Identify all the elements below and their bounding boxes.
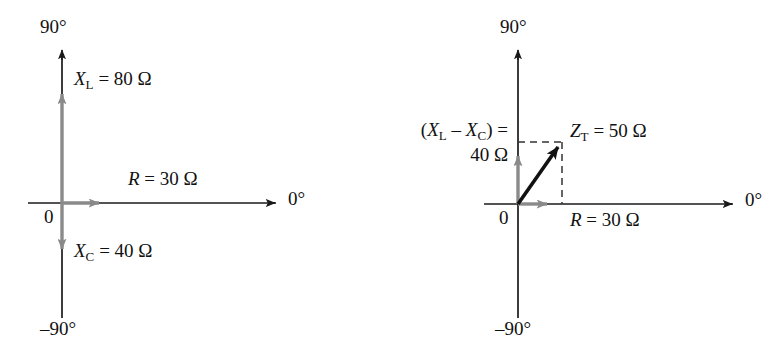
right-axis-label-90: 90° [500, 16, 527, 38]
right-diagram-canvas [385, 0, 775, 356]
right-net-reactance-phasor-label: (XL – XC) = 40 Ω [393, 119, 508, 165]
left-phasor-diagram: 90° –90° 0° 0 XL = 80 Ω R = 30 Ω XC = 40… [0, 0, 390, 356]
right-r-phasor-label: R = 30 Ω [570, 209, 640, 234]
left-axis-label-minus-90: –90° [40, 318, 76, 340]
left-axis-label-90: 90° [40, 16, 67, 38]
left-origin-label: 0 [44, 206, 54, 228]
phasor-diagram-figure: 90° –90° 0° 0 XL = 80 Ω R = 30 Ω XC = 40… [0, 0, 775, 356]
left-xc-phasor-label: XC = 40 Ω [74, 240, 152, 265]
right-origin-label: 0 [499, 207, 509, 229]
right-total-impedance-phasor-arrow [518, 147, 558, 204]
right-axis-label-0deg: 0° [745, 189, 762, 211]
left-xl-phasor-label: XL = 80 Ω [74, 68, 152, 93]
left-r-phasor-label: R = 30 Ω [128, 168, 198, 193]
right-total-impedance-phasor-label: ZT = 50 Ω [570, 120, 647, 145]
left-axis-label-0deg: 0° [288, 188, 305, 210]
right-net-reactance-phasor-label-line2: 40 Ω [393, 144, 508, 166]
right-axis-label-minus-90: –90° [495, 318, 531, 340]
right-phasor-diagram: 90° –90° 0° 0 (XL – XC) = 40 Ω ZT = 50 Ω… [385, 0, 775, 356]
